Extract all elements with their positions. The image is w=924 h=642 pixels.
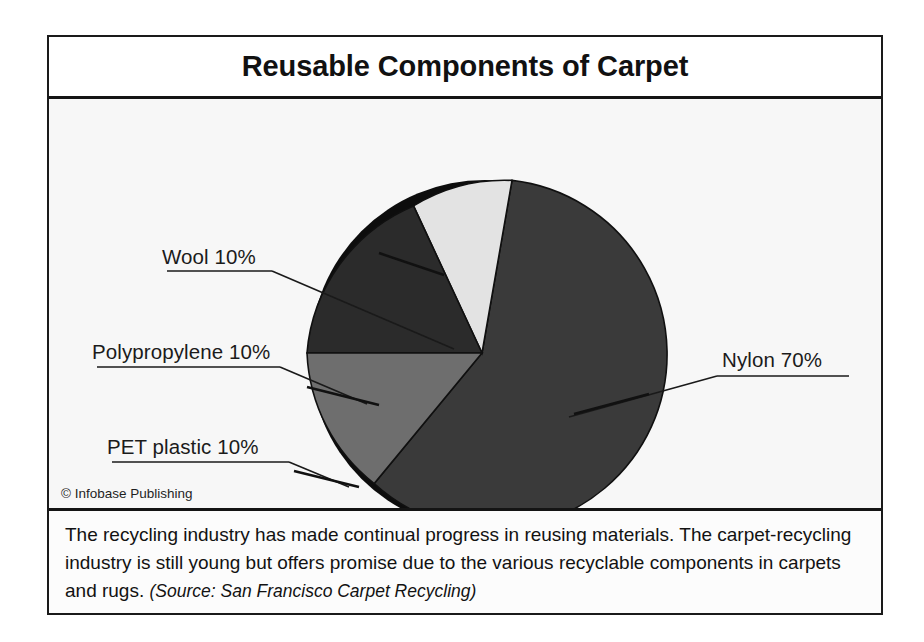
pie-label-pet: PET plastic 10% — [107, 435, 259, 459]
caption-band: The recycling industry has made continua… — [49, 511, 881, 613]
copyright-notice: © Infobase Publishing — [61, 486, 193, 501]
leader-line-pet — [112, 462, 359, 487]
pie-label-nylon: Nylon 70% — [722, 348, 822, 372]
figure-title: Reusable Components of Carpet — [242, 50, 689, 83]
chart-area: Wool 10% Polypropylene 10% PET plastic 1… — [49, 99, 881, 511]
pie-label-polypropylene: Polypropylene 10% — [92, 340, 270, 364]
figure-title-band: Reusable Components of Carpet — [49, 37, 881, 99]
pie-label-wool: Wool 10% — [162, 245, 256, 269]
figure-frame: Reusable Components of Carpet — [47, 35, 883, 615]
caption-source: (Source: San Francisco Carpet Recycling) — [150, 581, 477, 601]
caption-paragraph: The recycling industry has made continua… — [65, 521, 865, 605]
